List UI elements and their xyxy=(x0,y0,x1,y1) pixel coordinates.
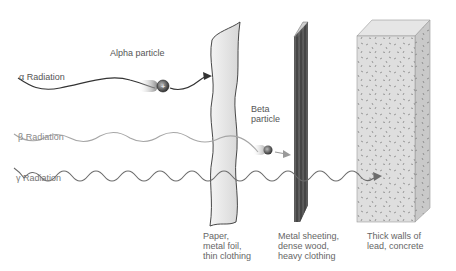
metal-caption: Metal sheeting, dense wood, heavy clothi… xyxy=(278,231,339,261)
gamma-radiation-label: γ Radiation xyxy=(16,173,61,183)
beta-particle-icon xyxy=(264,146,273,155)
paper-caption: Paper, metal foil, thin clothing xyxy=(203,231,251,261)
beta-particle-label: Beta particle xyxy=(251,104,280,124)
concrete-wall xyxy=(357,20,430,222)
gamma-radiation-path xyxy=(14,168,382,181)
alpha-radiation-label: α Radiation xyxy=(19,72,65,82)
metal-sheet xyxy=(294,22,308,222)
beta-arrowhead-icon xyxy=(283,150,291,158)
svg-text:+: + xyxy=(161,82,166,91)
alpha-arrowhead-icon xyxy=(203,72,212,80)
concrete-caption: Thick walls of lead, concrete xyxy=(367,231,424,251)
beta-radiation-label: β Radiation xyxy=(18,132,64,142)
alpha-particle-label: Alpha particle xyxy=(110,48,165,58)
paper-sheet xyxy=(210,22,240,226)
